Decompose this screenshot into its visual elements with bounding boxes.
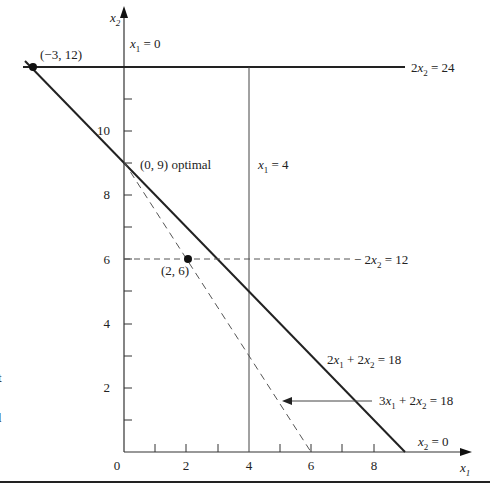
point-2-6 bbox=[184, 255, 192, 263]
x-axis-arrow-icon bbox=[460, 448, 472, 456]
y-tick-6: 6 bbox=[104, 252, 111, 267]
x-tick-8: 8 bbox=[371, 458, 378, 473]
label-x1-eq-0: x1 = 0 bbox=[129, 36, 161, 54]
origin-label: 0 bbox=[114, 458, 121, 473]
label-2x2-eq-12: − 2x2 = 12 bbox=[354, 252, 408, 270]
x-tick-6: 6 bbox=[308, 458, 315, 473]
y-tick-8: 8 bbox=[104, 187, 111, 202]
line-3x1-2x2-eq-18 bbox=[124, 162, 311, 452]
label-point-2-6: (2, 6) bbox=[161, 263, 189, 278]
point-neg3-12 bbox=[29, 63, 37, 71]
y-tick-2: 2 bbox=[104, 380, 111, 395]
y-tick-labels: 2 4 6 8 10 bbox=[97, 123, 111, 395]
annotation-arrow-icon bbox=[282, 397, 292, 405]
x-tick-labels: 0 2 4 6 8 bbox=[114, 458, 378, 473]
x-tick-4: 4 bbox=[246, 458, 253, 473]
y-axis-title: x2 bbox=[109, 10, 121, 28]
x-tick-2: 2 bbox=[183, 458, 190, 473]
label-point-neg3-12: (−3, 12) bbox=[40, 47, 82, 62]
x-axis-title: x1 bbox=[459, 460, 470, 478]
x-ticks bbox=[155, 444, 374, 452]
label-x1-eq-4: x1 = 4 bbox=[257, 157, 289, 175]
label-point-0-9-optimal: (0, 9) optimal bbox=[140, 157, 212, 172]
label-2x1-2x2-eq-18: 2x1 + 2x2 = 18 bbox=[327, 352, 401, 370]
y-axis-arrow-icon bbox=[120, 6, 128, 18]
edge-text-fragment: l bbox=[0, 410, 2, 425]
label-2x2-eq-24: 2x2 = 24 bbox=[411, 60, 455, 78]
label-3x1-2x2-eq-18: 3x1 + 2x2 = 18 bbox=[379, 393, 453, 411]
edge-text-fragment: t bbox=[0, 370, 2, 385]
y-tick-4: 4 bbox=[104, 316, 111, 331]
lp-feasible-region-chart: 2 4 6 8 10 0 2 4 6 8 x2 x1 (−3, 12) (0, … bbox=[0, 0, 490, 495]
label-x2-eq-0: x2 = 0 bbox=[417, 434, 449, 452]
line-2x1-2x2-eq-18 bbox=[25, 61, 405, 452]
